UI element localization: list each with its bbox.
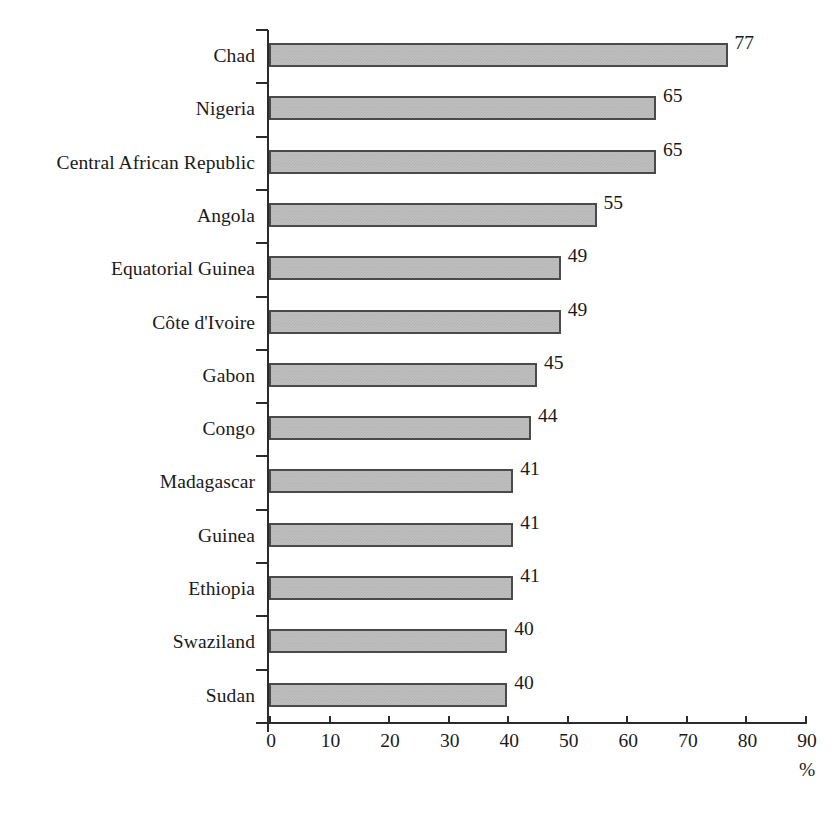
bar-row: Congo44 — [0, 403, 836, 456]
x-axis-tick-label: 60 — [598, 728, 658, 754]
bar — [269, 96, 656, 120]
bar-value-label: 45 — [544, 351, 564, 375]
category-label: Angola — [0, 203, 255, 229]
x-axis-tick — [329, 716, 331, 724]
bar-wrapper — [269, 523, 513, 549]
category-label: Nigeria — [0, 96, 255, 122]
x-axis-tick — [269, 716, 271, 724]
bar-wrapper — [269, 150, 656, 176]
y-axis-tick — [256, 82, 268, 84]
bar — [269, 416, 531, 440]
x-axis-tick-label: 30 — [420, 728, 480, 754]
bar-wrapper — [269, 683, 507, 709]
bar-wrapper — [269, 469, 513, 495]
y-axis-tick — [256, 615, 268, 617]
bar-wrapper — [269, 203, 597, 229]
bar-wrapper — [269, 416, 531, 442]
category-label: Sudan — [0, 683, 255, 709]
bar-value-label: 49 — [568, 298, 588, 322]
y-axis-tick — [256, 189, 268, 191]
bar-value-label: 77 — [735, 31, 755, 55]
x-axis-tick-label: 10 — [301, 728, 361, 754]
y-axis-tick — [256, 455, 268, 457]
category-label: Ethiopia — [0, 576, 255, 602]
bar-value-label: 40 — [514, 617, 534, 641]
category-label: Equatorial Guinea — [0, 256, 255, 282]
bar-value-label: 65 — [663, 138, 683, 162]
bar-row: Central African Republic65 — [0, 137, 836, 190]
category-label: Guinea — [0, 523, 255, 549]
bar — [269, 150, 656, 174]
y-axis-tick — [256, 562, 268, 564]
y-axis-tick — [256, 242, 268, 244]
y-axis-tick — [256, 349, 268, 351]
bar-row: Madagascar41 — [0, 456, 836, 509]
bar — [269, 523, 513, 547]
y-axis-tick — [256, 669, 268, 671]
category-label: Côte d'Ivoire — [0, 310, 255, 336]
bar — [269, 43, 728, 67]
bar-value-label: 41 — [520, 457, 540, 481]
bar-row: Nigeria65 — [0, 83, 836, 136]
bar-row: Guinea41 — [0, 510, 836, 563]
bar-chart: Chad77Nigeria65Central African Republic6… — [0, 0, 836, 816]
x-axis-tick — [745, 716, 747, 724]
bar-wrapper — [269, 310, 561, 336]
category-label: Swaziland — [0, 629, 255, 655]
category-label: Central African Republic — [0, 150, 255, 176]
bar-value-label: 55 — [604, 191, 624, 215]
bar-wrapper — [269, 363, 537, 389]
x-axis-tick-label: 70 — [658, 728, 718, 754]
bar-wrapper — [269, 43, 728, 69]
y-axis-tick — [256, 722, 268, 724]
y-axis-tick — [256, 402, 268, 404]
bar-wrapper — [269, 256, 561, 282]
bar-row: Côte d'Ivoire49 — [0, 297, 836, 350]
bar — [269, 576, 513, 600]
bar-value-label: 44 — [538, 404, 558, 428]
bar-wrapper — [269, 629, 507, 655]
bar-row: Ethiopia41 — [0, 563, 836, 616]
bar-value-label: 41 — [520, 564, 540, 588]
bar-wrapper — [269, 576, 513, 602]
x-axis-tick — [686, 716, 688, 724]
x-axis-tick — [448, 716, 450, 724]
bar-value-label: 40 — [514, 671, 534, 695]
category-label: Congo — [0, 416, 255, 442]
x-axis-tick — [507, 716, 509, 724]
x-axis-tick — [388, 716, 390, 724]
category-label: Gabon — [0, 363, 255, 389]
bar — [269, 363, 537, 387]
bar-row: Equatorial Guinea49 — [0, 243, 836, 296]
bar-value-label: 49 — [568, 244, 588, 268]
y-axis-tick — [256, 29, 268, 31]
bar-row: Sudan40 — [0, 670, 836, 723]
bar — [269, 310, 561, 334]
x-axis-unit-label: % — [777, 757, 836, 783]
bar-row: Angola55 — [0, 190, 836, 243]
bar-row: Gabon45 — [0, 350, 836, 403]
bar-row: Swaziland40 — [0, 616, 836, 669]
x-axis-tick — [805, 716, 807, 724]
x-axis-tick-label: 50 — [539, 728, 599, 754]
x-axis-tick-label: 90 — [777, 728, 836, 754]
x-axis-tick-label: 20 — [360, 728, 420, 754]
bar-value-label: 65 — [663, 84, 683, 108]
y-axis-tick — [256, 136, 268, 138]
x-axis-tick — [626, 716, 628, 724]
y-axis-tick — [256, 296, 268, 298]
bar-value-label: 41 — [520, 511, 540, 535]
bar — [269, 256, 561, 280]
category-label: Chad — [0, 43, 255, 69]
bar — [269, 683, 507, 707]
x-axis-tick-label: 80 — [717, 728, 777, 754]
x-axis-tick — [567, 716, 569, 724]
x-axis-tick-label: 0 — [241, 728, 301, 754]
category-label: Madagascar — [0, 469, 255, 495]
bar — [269, 203, 597, 227]
bar — [269, 469, 513, 493]
bar — [269, 629, 507, 653]
x-axis-tick-label: 40 — [479, 728, 539, 754]
y-axis-tick — [256, 509, 268, 511]
bar-wrapper — [269, 96, 656, 122]
